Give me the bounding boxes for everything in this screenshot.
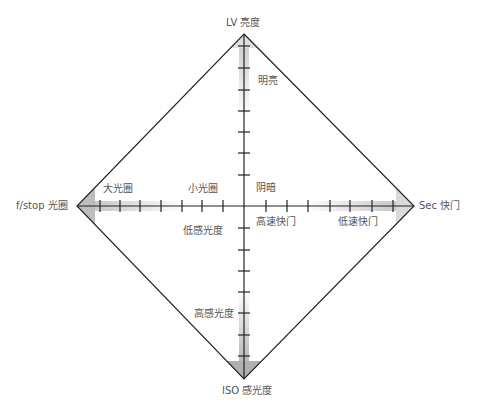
- label-high-speed-shutter: 高速快门: [256, 216, 296, 228]
- label-low-iso: 低感光度: [183, 225, 223, 237]
- label-high-iso: 高感光度: [194, 308, 234, 320]
- label-large-aperture: 大光圈: [103, 183, 133, 195]
- axis-label-right: Sec 快门: [419, 200, 460, 212]
- axis-label-bottom: ISO 感光度: [222, 385, 272, 397]
- exposure-diamond-diagram: [0, 0, 478, 414]
- axis-label-left: f/stop 光圈: [16, 200, 68, 212]
- label-dark: 阴暗: [256, 182, 276, 194]
- label-bright: 明亮: [258, 75, 278, 87]
- axis-label-top: LV 亮度: [226, 17, 261, 29]
- label-low-speed-shutter: 低速快门: [338, 216, 378, 228]
- label-small-aperture: 小光圈: [188, 183, 218, 195]
